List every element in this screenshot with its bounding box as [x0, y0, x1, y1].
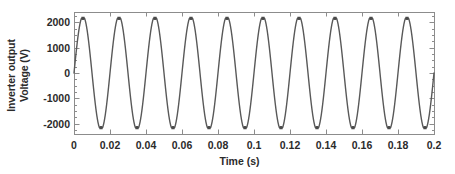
- x-axis-title-text: Time (s): [195, 155, 259, 167]
- data-series-group: [74, 17, 434, 130]
- plot-area: [0, 0, 455, 174]
- x-axis-title: Time (s): [0, 155, 455, 167]
- chart-figure: Inverter output Voltage (V) 200010000-10…: [0, 0, 455, 174]
